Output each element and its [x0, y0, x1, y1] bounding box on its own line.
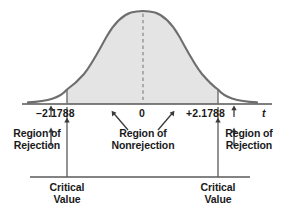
region-label-left-rejection: Region of Rejection [6, 128, 68, 152]
axis-name-t: t [262, 108, 266, 120]
region-nonrejection-line2: Nonrejection [96, 140, 190, 152]
region-left-rejection-line2: Rejection [6, 140, 68, 152]
nonrejection-shaded-area [67, 11, 218, 104]
region-nonrejection-line1: Region of [96, 128, 190, 140]
critical-value-label-right: Critical Value [183, 182, 253, 206]
critical-value-right-line2: Value [183, 194, 253, 206]
region-right-rejection-line1: Region of [218, 128, 280, 140]
region-label-right-rejection: Region of Rejection [218, 128, 280, 152]
right-tail-arrow-tick [231, 105, 236, 117]
critical-value-left-line2: Value [32, 194, 102, 206]
tick-label-negative-critical: –2.1788 [36, 108, 75, 120]
tick-label-zero: 0 [139, 108, 145, 120]
critical-value-label-left: Critical Value [32, 182, 102, 206]
critical-value-left-line1: Critical [32, 182, 102, 194]
critical-value-right-line1: Critical [183, 182, 253, 194]
tick-label-positive-critical: +2.1788 [186, 108, 225, 120]
region-left-rejection-line1: Region of [6, 128, 68, 140]
region-right-rejection-line2: Rejection [218, 140, 280, 152]
region-label-nonrejection: Region of Nonrejection [96, 128, 190, 152]
